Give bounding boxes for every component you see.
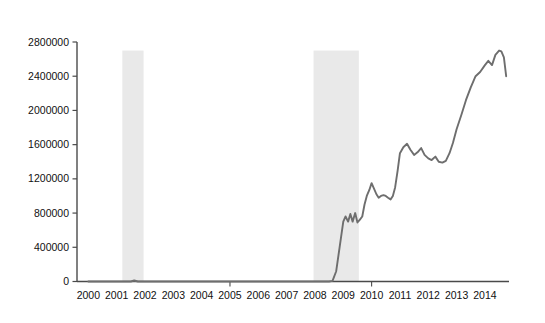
x-tick-label-2011: 2011 — [389, 289, 412, 301]
x-tick-label-2006: 2006 — [247, 289, 271, 301]
y-tick-label-2000000: 2000000 — [28, 104, 69, 116]
x-tick-label-2008: 2008 — [303, 289, 327, 301]
y-tick-label-1600000: 1600000 — [28, 138, 69, 150]
recession-bands-group — [122, 51, 359, 282]
x-tick-label-2009: 2009 — [332, 289, 356, 301]
line-chart: 0400000800000120000016000002000000240000… — [0, 0, 545, 323]
x-tick-label-2005: 2005 — [218, 289, 242, 301]
x-tick-label-2002: 2002 — [133, 289, 157, 301]
recession-band-2001 — [122, 51, 143, 282]
y-tick-label-0: 0 — [63, 275, 69, 287]
chart-figure: 0400000800000120000016000002000000240000… — [0, 0, 545, 323]
data-line-series-1 — [88, 51, 506, 282]
y-tick-label-1200000: 1200000 — [28, 172, 69, 184]
x-tick-label-2004: 2004 — [190, 289, 214, 301]
x-tick-label-2000: 2000 — [77, 289, 101, 301]
x-tick-label-2001: 2001 — [105, 289, 129, 301]
x-tick-label-2012: 2012 — [417, 289, 441, 301]
x-tick-label-2014: 2014 — [473, 289, 497, 301]
y-tick-label-2800000: 2800000 — [28, 36, 69, 48]
x-tick-label-2003: 2003 — [162, 289, 186, 301]
y-tick-label-400000: 400000 — [34, 241, 69, 253]
x-tick-label-2007: 2007 — [275, 289, 299, 301]
x-axis-tick-labels: 2000200120022003200420052006200720082009… — [77, 289, 497, 301]
recession-band-2008 — [314, 51, 359, 282]
y-tick-label-2400000: 2400000 — [28, 70, 69, 82]
x-tick-label-2010: 2010 — [360, 289, 384, 301]
y-axis-tick-labels: 0400000800000120000016000002000000240000… — [28, 36, 69, 288]
data-series-group — [88, 51, 506, 282]
x-tick-label-2013: 2013 — [445, 289, 469, 301]
y-tick-label-800000: 800000 — [34, 207, 69, 219]
